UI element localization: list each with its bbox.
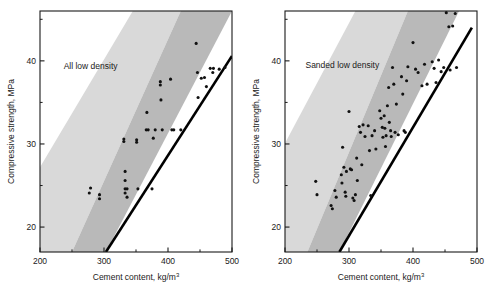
data-point <box>360 163 363 166</box>
data-point <box>387 86 390 89</box>
x-tick-label: 500 <box>225 256 239 266</box>
data-point <box>347 110 350 113</box>
data-point <box>405 79 408 82</box>
data-point <box>159 80 162 83</box>
data-point <box>212 67 215 70</box>
y-tick-label: 30 <box>27 139 37 149</box>
data-point <box>211 71 214 74</box>
y-tick-label: 20 <box>27 222 37 232</box>
data-point <box>161 128 164 131</box>
data-point <box>340 181 343 184</box>
y-tick-label: 40 <box>272 56 282 66</box>
data-point <box>350 168 353 171</box>
figure-container: All low density200300400500203040Cement … <box>0 0 490 291</box>
data-point <box>383 114 386 117</box>
data-point <box>345 170 348 173</box>
data-point <box>363 135 366 138</box>
data-point <box>342 166 345 169</box>
data-point <box>205 85 208 88</box>
data-point <box>209 67 212 70</box>
data-point <box>397 133 400 136</box>
plot-area <box>40 11 232 252</box>
data-point <box>358 125 361 128</box>
data-point <box>369 194 372 197</box>
data-point <box>315 193 318 196</box>
data-point <box>392 83 395 86</box>
data-point <box>150 187 153 190</box>
x-tick-label: 400 <box>406 256 420 266</box>
chart-svg: Sanded low density200300400500203040Ceme… <box>245 0 490 291</box>
data-point <box>431 60 434 63</box>
data-point <box>344 191 347 194</box>
data-point <box>389 129 392 132</box>
data-point <box>136 187 139 190</box>
data-point <box>454 12 457 15</box>
data-point <box>401 93 404 96</box>
data-point <box>449 68 452 71</box>
y-axis-title: Compressive strength, MPa <box>6 79 16 184</box>
data-point <box>400 75 403 78</box>
panel-title-label: All low density <box>64 61 119 71</box>
data-point <box>340 173 343 176</box>
data-point <box>331 207 334 210</box>
data-point <box>356 179 359 182</box>
x-axis-title: Cement content, kg/m3 <box>93 272 180 282</box>
y-axis-title: Compressive strength, MPa <box>251 79 261 184</box>
data-point <box>122 140 125 143</box>
plot-area <box>285 11 477 252</box>
data-point <box>394 131 397 134</box>
data-point <box>447 25 450 28</box>
data-point <box>154 128 157 131</box>
data-point <box>159 98 162 101</box>
data-point <box>383 127 386 130</box>
data-point <box>98 197 101 200</box>
x-tick-label: 200 <box>33 256 47 266</box>
data-point <box>414 68 417 71</box>
data-point <box>355 157 358 160</box>
data-point <box>395 103 398 106</box>
data-point <box>388 121 391 124</box>
data-point <box>203 76 206 79</box>
data-point <box>124 170 127 173</box>
data-point <box>124 179 127 182</box>
data-point <box>374 147 377 150</box>
data-point <box>386 104 389 107</box>
data-point <box>434 81 437 84</box>
data-point <box>88 191 91 194</box>
data-point <box>381 136 384 139</box>
data-point <box>426 83 429 86</box>
data-point <box>223 66 226 69</box>
data-point <box>196 71 199 74</box>
data-point <box>385 134 388 137</box>
data-point <box>437 58 440 61</box>
y-tick-label: 30 <box>272 139 282 149</box>
data-point <box>135 141 138 144</box>
data-point <box>442 66 445 69</box>
data-point <box>169 78 172 81</box>
data-point <box>440 70 443 73</box>
data-point <box>404 131 407 134</box>
data-point <box>455 66 458 69</box>
data-point <box>179 128 182 131</box>
x-tick-label: 300 <box>97 256 111 266</box>
x-axis-title: Cement content, kg/m3 <box>338 272 425 282</box>
data-point <box>445 11 448 14</box>
data-point <box>433 67 436 70</box>
data-point <box>378 109 381 112</box>
x-tick-label: 300 <box>342 256 356 266</box>
data-point <box>420 84 423 87</box>
data-point <box>335 196 338 199</box>
data-point <box>145 111 148 114</box>
data-point <box>367 124 370 127</box>
chart-panel-all-low-density: All low density200300400500203040Cement … <box>0 0 245 291</box>
x-tick-label: 400 <box>161 256 175 266</box>
data-point <box>124 191 127 194</box>
data-point <box>172 128 175 131</box>
x-tick-label: 500 <box>470 256 484 266</box>
data-point <box>125 187 128 190</box>
y-tick-label: 20 <box>272 222 282 232</box>
data-point <box>341 146 344 149</box>
data-point <box>370 134 373 137</box>
data-point <box>195 42 198 45</box>
data-point <box>423 63 426 66</box>
